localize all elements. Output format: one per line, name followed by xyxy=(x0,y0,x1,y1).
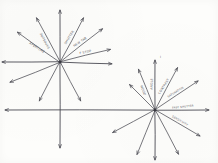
sketch-page: SHUTTERNEW TABF STOPEXPOSUREAPERTUREANGL… xyxy=(0,0,218,163)
hub-right-cluster xyxy=(154,109,157,112)
ray-label-r-right: FAST SHUTTER xyxy=(172,103,194,109)
ray-r-up-right1 xyxy=(155,68,177,110)
ray-r-dn-left xyxy=(137,110,155,155)
stray-mark-mark-top-right: I xyxy=(160,55,161,59)
ray-l-dn-left xyxy=(39,62,59,101)
sketch-canvas: SHUTTERNEW TABF STOPEXPOSUREAPERTUREANGL… xyxy=(0,0,218,163)
ray-l-up-left1 xyxy=(37,18,61,62)
ray-l-right xyxy=(60,62,112,64)
hub-left-cluster xyxy=(59,61,62,64)
ray-l-dn-right xyxy=(60,62,80,101)
ray-r-left-dn xyxy=(113,110,155,133)
ray-l-left-dn xyxy=(10,62,60,82)
left-cluster: SHUTTERNEW TABF STOPEXPOSUREAPERTURE xyxy=(2,10,112,148)
right-cluster: ANGLEZOOMCONTRASTSATURATIONFAST SHUTTERS… xyxy=(5,60,209,160)
ray-label-r-up-right1: CONTRAST xyxy=(157,78,170,95)
ray-label-r-up: ANGLE xyxy=(149,78,153,89)
